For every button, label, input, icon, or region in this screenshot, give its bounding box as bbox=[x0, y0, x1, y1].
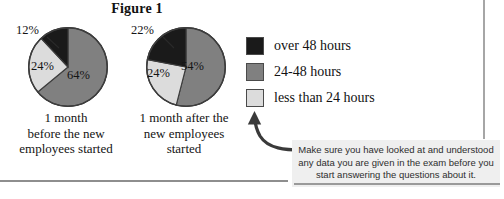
bottom-divider bbox=[0, 180, 288, 182]
legend-swatch-24to48-icon bbox=[246, 63, 264, 81]
pie-before-label-over48: 12% bbox=[16, 24, 39, 37]
legend-item-over48: over 48 hours bbox=[246, 34, 375, 57]
pie-before-label-under24: 24% bbox=[31, 60, 54, 73]
legend-swatch-over48-icon bbox=[246, 37, 264, 55]
pie-after-caption-line-3: started bbox=[124, 141, 244, 157]
annotation-underline bbox=[294, 183, 500, 185]
pie-chart-before-graphic: 12% 24% 64% bbox=[6, 22, 126, 114]
legend-label-under24: less than 24 hours bbox=[274, 91, 375, 105]
leader-line-before bbox=[46, 36, 58, 46]
pie-before-caption-line-3: employees started bbox=[6, 141, 126, 157]
pie-after-label-under24: 24% bbox=[147, 67, 170, 80]
pie-before-caption: 1 month before the new employees started bbox=[6, 110, 126, 157]
pie-after-caption: 1 month after the new employees started bbox=[124, 110, 244, 157]
legend-label-24to48: 24-48 hours bbox=[274, 65, 341, 79]
pie-after-label-24to48: 54% bbox=[181, 60, 204, 73]
pie-before-caption-line-1: 1 month bbox=[6, 110, 126, 126]
page-title: Figure 1 bbox=[0, 1, 274, 17]
legend-item-24to48: 24-48 hours bbox=[246, 60, 375, 83]
annotation-note: Make sure you have looked at and underst… bbox=[292, 140, 500, 187]
legend-label-over48: over 48 hours bbox=[274, 39, 351, 53]
pie-chart-after-graphic: 22% 24% 54% bbox=[124, 22, 244, 114]
pie-chart-before: 12% 24% 64% 1 month before the new emplo… bbox=[6, 22, 126, 114]
pie-before-label-24to48: 64% bbox=[67, 69, 90, 82]
pie-chart-after: 22% 24% 54% 1 month after the new employ… bbox=[124, 22, 244, 114]
legend-swatch-under24-icon bbox=[246, 89, 264, 107]
chart-legend: over 48 hours 24-48 hours less than 24 h… bbox=[246, 34, 375, 112]
right-margin-divider bbox=[483, 0, 485, 139]
pie-after-caption-line-2: new employees bbox=[124, 126, 244, 142]
pie-after-label-over48: 22% bbox=[131, 24, 154, 37]
leader-line-after bbox=[162, 36, 174, 46]
figure-page: Figure 1 12% 24% 64% 1 month before the … bbox=[0, 0, 504, 199]
legend-item-under24: less than 24 hours bbox=[246, 86, 375, 109]
pie-after-caption-line-1: 1 month after the bbox=[124, 110, 244, 126]
pie-before-caption-line-2: before the new bbox=[6, 126, 126, 142]
